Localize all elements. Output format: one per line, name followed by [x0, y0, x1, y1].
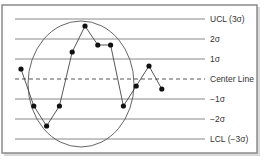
label-2sigma: 2σ	[210, 34, 221, 44]
control-chart: UCL (3σ) 2σ 1σ Center Line −1σ −2σ LCL (…	[0, 0, 273, 160]
label-neg-2sigma: −2σ	[210, 114, 226, 124]
data-point	[159, 86, 164, 91]
data-point	[108, 42, 113, 47]
data-point	[70, 49, 75, 54]
data-point	[146, 63, 151, 68]
label-ucl: UCL (3σ)	[210, 14, 245, 24]
data-point	[18, 66, 23, 71]
data-point	[95, 42, 100, 47]
label-neg-1sigma: −1σ	[210, 94, 226, 104]
data-point	[57, 103, 62, 108]
data-point	[44, 123, 49, 128]
data-point	[31, 103, 36, 108]
data-point	[134, 83, 139, 88]
data-point	[82, 23, 87, 28]
label-center-line: Center Line	[210, 74, 254, 84]
label-lcl: LCL (−3σ)	[210, 134, 248, 144]
data-point	[121, 103, 126, 108]
label-1sigma: 1σ	[210, 54, 221, 64]
